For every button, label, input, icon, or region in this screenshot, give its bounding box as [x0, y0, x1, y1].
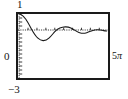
- plot-canvas: [18, 14, 108, 78]
- x-axis-max-label: 5π: [112, 51, 122, 61]
- figure-container: 1 0 −3 5π: [0, 0, 128, 99]
- pi-symbol: π: [117, 50, 122, 61]
- y-axis-ticks: [19, 18, 22, 74]
- plot-frame: [16, 12, 110, 80]
- y-axis-max-label: 1: [17, 0, 23, 10]
- y-axis-zero-label: 0: [4, 51, 10, 62]
- y-axis-min-label: −3: [8, 84, 20, 95]
- damped-cosine-curve: [20, 14, 107, 41]
